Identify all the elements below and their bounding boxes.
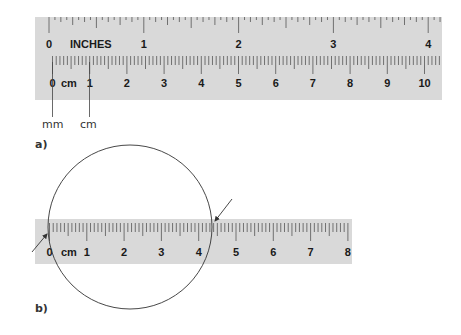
ruler-number: 10 [418,77,430,89]
ruler-number: 3 [161,77,167,89]
ruler-number: 7 [308,246,314,258]
ruler-number: 3 [330,38,336,50]
ruler-a: 01234 INCHES 012345678910 cm [35,17,442,100]
ruler-number: 1 [84,246,90,258]
ruler-number: 5 [235,77,241,89]
ruler-number: 6 [270,246,276,258]
ruler-number: 9 [384,77,390,89]
ruler-b: 012345678 cm [35,219,352,264]
ruler-number: 7 [310,77,316,89]
ruler-number: 8 [345,246,351,258]
mm-callout-label: mm [42,118,63,131]
ruler-number: 2 [236,38,242,50]
ruler-number: 5 [233,246,239,258]
cm-label-b: cm [61,246,77,258]
ruler-number: 2 [124,77,130,89]
right-arrow-icon [215,199,232,221]
ruler-number: 8 [347,77,353,89]
ruler-number: 4 [196,246,203,258]
ruler-number: 4 [198,77,205,89]
ruler-number: 4 [425,38,432,50]
ruler-diagram: 01234 INCHES 012345678910 cm mm cm a) 01… [0,0,461,335]
panel-b-label: b) [35,302,48,315]
ruler-number: 3 [158,246,164,258]
panel-a-label: a) [35,138,47,151]
ruler-b-body [35,219,352,264]
cm-label-a: cm [61,77,77,89]
ruler-number: 6 [273,77,279,89]
ruler-number: 1 [141,38,147,50]
ruler-number: 0 [46,38,52,50]
cm-callout-label: cm [80,118,97,131]
ruler-number: 2 [121,246,127,258]
inches-label: INCHES [70,38,112,50]
